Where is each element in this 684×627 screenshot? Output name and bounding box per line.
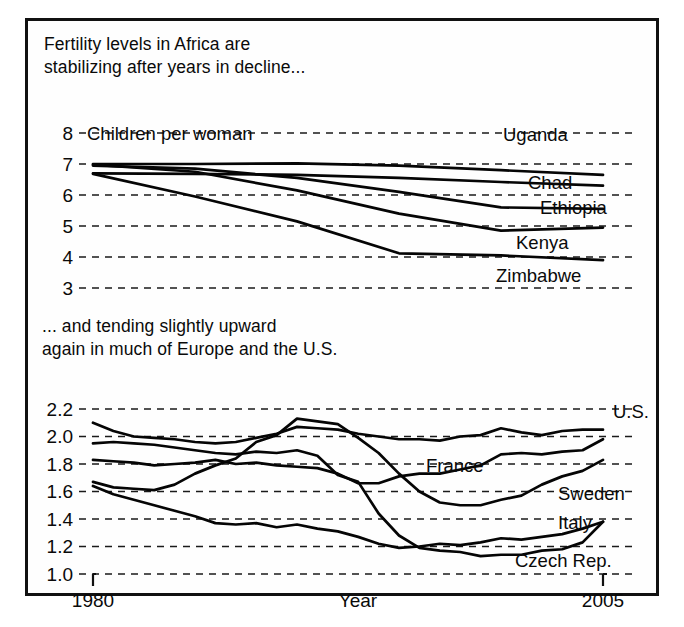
- y-tick-label: 7: [62, 154, 73, 175]
- y-tick-label: 8: [62, 123, 73, 144]
- x-tick-label-left: 1980: [72, 590, 114, 611]
- y-tick-label: 1.4: [47, 509, 74, 530]
- series-line-u-s: [93, 423, 603, 444]
- y-tick-label: 1.6: [47, 481, 73, 502]
- figure-panel: Fertility levels in Africa are stabilizi…: [25, 18, 659, 596]
- x-tick-1980: [93, 574, 96, 586]
- series-line-italy: [93, 486, 603, 548]
- series-label-zimbabwe: Zimbabwe: [496, 265, 581, 286]
- chart-africa: 876543Children per womanUgandaChadEthiop…: [28, 97, 656, 277]
- y-tick-label: 1.8: [47, 454, 73, 475]
- caption-bottom: ... and tending slightly upward again in…: [42, 315, 337, 361]
- y-tick-label: 5: [62, 216, 73, 237]
- y-tick-label: 1.2: [47, 536, 73, 557]
- chart-europe-us-svg: 2.22.01.81.61.41.21.0U.S.FranceSwedenIta…: [28, 371, 662, 586]
- y-axis-unit-label: Children per woman: [87, 123, 253, 144]
- y-tick-label: 3: [62, 278, 73, 299]
- series-label-sweden: Sweden: [558, 483, 625, 504]
- x-axis-title: Year: [339, 590, 378, 611]
- series-label-ethiopia: Ethiopia: [540, 197, 608, 218]
- series-label-chad: Chad: [528, 172, 572, 193]
- y-tick-label: 6: [62, 185, 73, 206]
- series-label-kenya: Kenya: [516, 232, 569, 253]
- series-label-u-s: U.S.: [613, 401, 649, 422]
- chart-africa-svg: 876543Children per womanUgandaChadEthiop…: [28, 97, 662, 277]
- y-tick-label: 2.2: [47, 399, 73, 420]
- series-label-france: France: [426, 455, 484, 476]
- chart-europe-us: 2.22.01.81.61.41.21.0U.S.FranceSwedenIta…: [28, 371, 656, 571]
- series-label-uganda: Uganda: [503, 124, 569, 145]
- series-label-italy: Italy: [558, 512, 593, 533]
- y-tick-label: 2.0: [47, 426, 73, 447]
- x-tick-label-right: 2005: [582, 590, 624, 611]
- y-tick-label: 4: [62, 247, 73, 268]
- y-tick-label: 1.0: [47, 564, 73, 585]
- series-label-czech-rep: Czech Rep.: [515, 550, 612, 571]
- figure-inner: Fertility levels in Africa are stabilizi…: [28, 21, 656, 593]
- x-tick-2005: [603, 574, 607, 586]
- caption-top: Fertility levels in Africa are stabilizi…: [44, 33, 305, 79]
- series-line-sweden: [93, 419, 603, 506]
